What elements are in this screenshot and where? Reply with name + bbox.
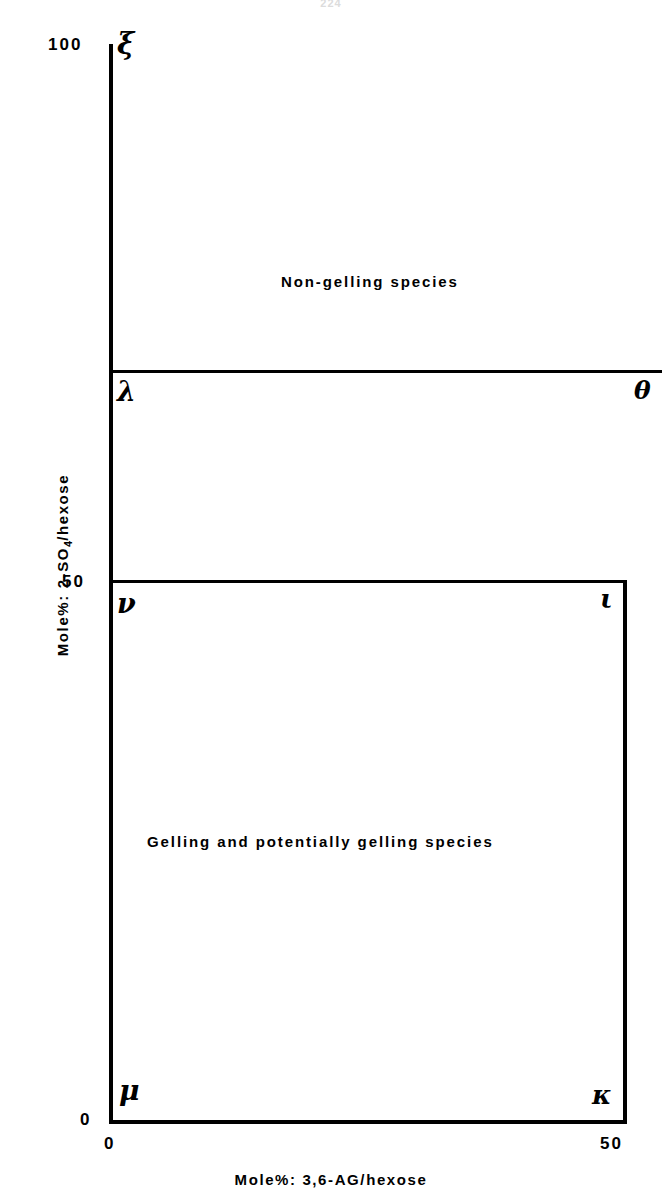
lambda-theta-divider-line: [109, 370, 662, 373]
marker-kappa: κ: [592, 1082, 612, 1108]
marker-lambda: λ: [117, 378, 136, 405]
gelling-box-right-edge: [623, 580, 627, 1124]
region-label-non-gelling: Non-gelling species: [281, 273, 459, 290]
gelling-box-top-edge: [109, 580, 627, 583]
y-axis-title-suffix: /hexose: [54, 474, 71, 541]
marker-iota: ι: [600, 586, 613, 612]
page-running-head: 224: [0, 0, 662, 7]
x-axis-title: Mole%: 3,6-AG/hexose: [0, 1171, 662, 1188]
marker-nu: ν: [117, 590, 136, 617]
carrageenan-classification-figure: 224 100 50 0 0 50 ξ λ θ ν ι μ κ Non-gell…: [0, 0, 662, 1199]
y-axis-tick-label-100: 100: [48, 35, 82, 55]
region-label-gelling: Gelling and potentially gelling species: [147, 833, 494, 850]
y-axis-tick-label-0: 0: [80, 1110, 91, 1130]
marker-xi: ξ: [117, 30, 134, 59]
x-axis-line: [109, 1120, 627, 1124]
x-axis-tick-label-50: 50: [600, 1134, 623, 1154]
marker-theta: θ: [634, 378, 651, 403]
y-axis-title-subscript: 4: [62, 541, 74, 547]
y-axis-title-prefix: Mole%: 2-SO: [54, 547, 71, 656]
y-axis-title: Mole%: 2-SO4/hexose: [54, 265, 74, 865]
x-axis-tick-label-0: 0: [104, 1134, 115, 1154]
y-axis-line: [109, 44, 113, 1124]
marker-mu: μ: [119, 1077, 140, 1105]
